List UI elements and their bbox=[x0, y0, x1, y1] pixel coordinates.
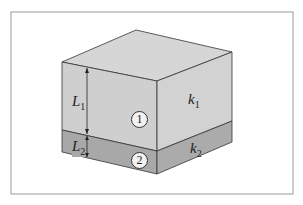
label-k1: k1 bbox=[188, 92, 200, 110]
label-l2: L2 bbox=[72, 139, 85, 157]
diagram: L1 L2 k1 k2 1 2 bbox=[0, 0, 303, 205]
label-k2: k2 bbox=[190, 141, 202, 159]
label-l1: L1 bbox=[72, 94, 85, 112]
layer1-marker: 1 bbox=[131, 111, 148, 128]
block-diagram-svg bbox=[0, 0, 303, 205]
layer2-marker: 2 bbox=[131, 152, 148, 169]
